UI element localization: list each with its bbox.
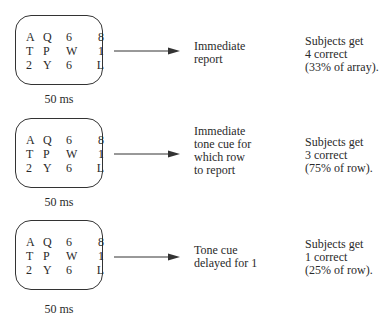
array-cell: 2: [26, 263, 43, 277]
letter-array-display: A Q 6 8 T P W 1 2 Y 6 L: [15, 15, 103, 85]
array-cell: 2: [26, 161, 43, 175]
array-cell: 1: [92, 147, 104, 161]
condition-line: delayed for 1: [194, 257, 294, 270]
arrow-right-icon: [114, 252, 180, 262]
letter-grid: A Q 6 8 T P W 1 2 Y 6 L: [26, 235, 104, 277]
array-cell: 6: [66, 58, 92, 72]
array-cell: 1: [92, 249, 104, 263]
array-cell: Q: [43, 133, 66, 147]
array-cell: A: [26, 133, 43, 147]
array-cell: T: [26, 44, 43, 58]
array-cell: P: [43, 44, 66, 58]
result-text: Subjects get 1 correct (25% of row).: [305, 238, 389, 277]
letter-grid: A Q 6 8 T P W 1 2 Y 6 L: [26, 133, 104, 175]
letter-array-display: A Q 6 8 T P W 1 2 Y 6 L: [15, 220, 103, 290]
array-cell: 6: [66, 161, 92, 175]
condition-text: Immediate report: [194, 40, 294, 66]
array-cell: A: [26, 235, 43, 249]
arrow-right-icon: [114, 149, 180, 159]
array-cell: P: [43, 249, 66, 263]
array-cell: 2: [26, 58, 43, 72]
array-cell: 1: [92, 44, 104, 58]
array-cell: Y: [43, 58, 66, 72]
condition-text: Tone cue delayed for 1: [194, 244, 294, 270]
array-cell: L: [92, 263, 104, 277]
duration-label: 50 ms: [15, 195, 103, 209]
array-cell: L: [92, 58, 104, 72]
array-cell: L: [92, 161, 104, 175]
array-cell: T: [26, 249, 43, 263]
array-cell: W: [66, 147, 92, 161]
array-cell: 8: [92, 30, 104, 44]
result-line: (75% of row).: [305, 162, 389, 175]
array-cell: 8: [92, 133, 104, 147]
condition-line: to report: [194, 164, 294, 177]
arrow-right-icon: [114, 46, 180, 56]
result-text: Subjects get 3 correct (75% of row).: [305, 136, 389, 175]
array-cell: W: [66, 44, 92, 58]
array-cell: T: [26, 147, 43, 161]
result-text: Subjects get 4 correct (33% of array).: [305, 35, 389, 74]
result-line: (33% of array).: [305, 61, 389, 74]
array-cell: Y: [43, 263, 66, 277]
array-cell: P: [43, 147, 66, 161]
condition-text: Immediate tone cue for which row to repo…: [194, 125, 294, 177]
duration-label: 50 ms: [15, 92, 103, 106]
duration-label: 50 ms: [15, 302, 103, 316]
array-cell: Q: [43, 235, 66, 249]
array-cell: A: [26, 30, 43, 44]
condition-line: report: [194, 53, 294, 66]
array-cell: Y: [43, 161, 66, 175]
array-cell: 6: [66, 133, 92, 147]
array-cell: 6: [66, 235, 92, 249]
letter-grid: A Q 6 8 T P W 1 2 Y 6 L: [26, 30, 104, 72]
array-cell: 8: [92, 235, 104, 249]
result-line: (25% of row).: [305, 264, 389, 277]
array-cell: W: [66, 249, 92, 263]
array-cell: 6: [66, 263, 92, 277]
letter-array-display: A Q 6 8 T P W 1 2 Y 6 L: [15, 118, 103, 188]
array-cell: 6: [66, 30, 92, 44]
array-cell: Q: [43, 30, 66, 44]
